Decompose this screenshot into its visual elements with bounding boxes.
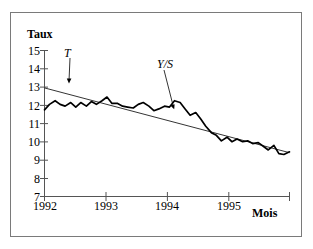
chart-figure: Taux Mois T Y/S	[0, 0, 313, 249]
y-tick-label-15: 15	[18, 44, 40, 59]
y-tick-label-8: 8	[18, 172, 40, 187]
axis-lines	[45, 50, 291, 197]
observed-series	[45, 97, 290, 154]
y-tick-label-13: 13	[18, 80, 40, 95]
y-tick-label-9: 9	[18, 153, 40, 168]
x-tick-label-1992: 1992	[25, 199, 65, 214]
y-tick-label-11: 11	[18, 117, 40, 132]
trend-label-arrow	[67, 58, 72, 84]
x-tick-label-1993: 1993	[86, 199, 126, 214]
x-tick-label-1995: 1995	[209, 199, 249, 214]
y-tick-label-10: 10	[18, 135, 40, 150]
x-tick-label-1994: 1994	[147, 199, 187, 214]
y-tick-label-12: 12	[18, 99, 40, 114]
y-tick-label-14: 14	[18, 62, 40, 77]
